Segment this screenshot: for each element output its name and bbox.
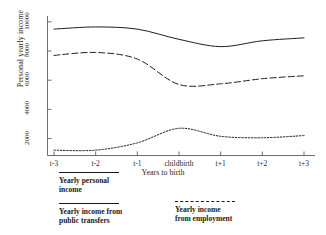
x-tick-label: t-3 — [50, 159, 58, 168]
x-tick-label: childbirth — [164, 159, 193, 168]
y-tick-label: 6000 — [23, 66, 31, 92]
x-tick-label: t+3 — [299, 159, 309, 168]
legend-label-employment-income-line2: from employment — [175, 214, 235, 223]
legend-label-employment-income-line1: Yearly income — [175, 205, 235, 214]
series-group — [54, 27, 304, 151]
plot-area — [47, 16, 315, 156]
legend-item-personal-income: Yearly personal income — [59, 172, 119, 195]
y-tick-marks — [48, 22, 52, 139]
legend-label-personal-income-line2: income — [59, 185, 119, 194]
legend-swatch-solid-line-icon — [59, 172, 119, 173]
legend-swatch-dashed-line-icon — [175, 201, 235, 202]
legend-label-public-transfers-line2: public transfers — [59, 216, 122, 225]
x-tick-label: t-2 — [91, 159, 99, 168]
plot-svg — [47, 16, 315, 156]
legend-item-public-transfers: Yearly income from public transfers — [59, 203, 122, 226]
y-tick-label: 4000 — [23, 95, 31, 121]
x-tick-label: t-1 — [133, 159, 141, 168]
series-line-dashed — [54, 52, 304, 86]
x-tick-label: t+2 — [257, 159, 267, 168]
y-tick-label: 2000 — [23, 125, 31, 151]
legend-swatch-dotted-line-icon — [59, 203, 119, 204]
legend-label-public-transfers-line1: Yearly income from — [59, 207, 122, 216]
x-tick-label: t+1 — [216, 159, 226, 168]
y-tick-label: 8000 — [23, 37, 31, 63]
x-tick-marks — [54, 152, 304, 156]
y-tick-label: 10000 — [23, 8, 31, 34]
legend-label-personal-income-line1: Yearly personal — [59, 176, 119, 185]
series-line-solid — [54, 27, 304, 47]
x-axis-title: Years to birth — [0, 168, 326, 177]
series-line-dotted — [54, 128, 304, 150]
legend-item-employment-income: Yearly income from employment — [175, 201, 235, 224]
chart-figure: Personal yearly income 20004000600080001… — [0, 0, 326, 235]
